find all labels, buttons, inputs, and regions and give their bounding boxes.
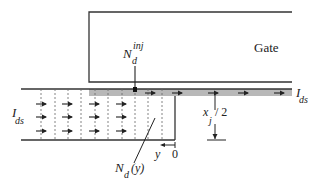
- injection-label-sup: inj: [133, 40, 144, 51]
- gate: Gate: [89, 12, 292, 82]
- source-region: [21, 96, 175, 140]
- doping-label-sub: d: [124, 169, 130, 180]
- current-left-sub: ds: [15, 115, 24, 126]
- injection-point-marker: [133, 66, 137, 92]
- origin-label: 0: [172, 147, 178, 161]
- y-axis-label: y: [154, 147, 161, 161]
- junction-depth-base: x: [202, 105, 209, 119]
- gate-label: Gate: [254, 40, 279, 55]
- mosfet-source-injection-diagram: Gate: [0, 0, 321, 184]
- doping-label-suffix: (y): [131, 161, 144, 175]
- channel-strip: [89, 89, 292, 96]
- injection-label-sub: d: [132, 55, 138, 66]
- junction-depth-suffix: / 2: [215, 105, 227, 119]
- current-right-sub: ds: [299, 94, 308, 105]
- doping-gradient-lines: [41, 89, 162, 140]
